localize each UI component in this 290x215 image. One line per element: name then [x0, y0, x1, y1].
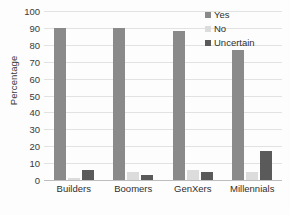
y-tick-label: 40 — [29, 107, 40, 118]
bar-slot — [201, 172, 213, 180]
y-tick-label: 50 — [29, 90, 40, 101]
bar-slot — [113, 28, 125, 180]
legend-swatch-icon — [205, 12, 211, 18]
x-axis-labels: BuildersBoomersGenXersMillennials — [44, 183, 282, 194]
y-tick-label: 0 — [35, 175, 40, 186]
bar — [173, 31, 185, 180]
x-tick-label: Boomers — [104, 183, 164, 194]
bar-slot — [173, 31, 185, 180]
bar — [187, 170, 199, 180]
bar — [82, 170, 94, 180]
y-tick-label: 70 — [29, 56, 40, 67]
y-tick-label: 10 — [29, 158, 40, 169]
bar-slot — [54, 28, 66, 180]
gridline — [44, 180, 282, 181]
bar-slot — [68, 178, 80, 180]
y-tick-label: 80 — [29, 39, 40, 50]
legend-item[interactable]: No — [205, 23, 255, 34]
legend-label: No — [214, 23, 226, 34]
y-tick-label: 30 — [29, 124, 40, 135]
legend-item[interactable]: Uncertain — [205, 37, 255, 48]
bar — [68, 178, 80, 180]
bar — [246, 172, 258, 180]
y-tick-label: 60 — [29, 73, 40, 84]
chart-legend: YesNoUncertain — [205, 9, 255, 48]
y-tick-label: 100 — [24, 6, 40, 17]
bar-slot — [82, 170, 94, 180]
bar-slot — [246, 172, 258, 180]
bar — [127, 172, 139, 180]
legend-swatch-icon — [205, 26, 211, 32]
bar — [260, 151, 272, 180]
legend-label: Uncertain — [214, 37, 255, 48]
x-tick-label: Millennials — [223, 183, 283, 194]
legend-label: Yes — [214, 9, 230, 20]
bar-slot — [260, 151, 272, 180]
bar — [232, 50, 244, 180]
bar — [54, 28, 66, 180]
legend-item[interactable]: Yes — [205, 9, 255, 20]
bar-slot — [141, 175, 153, 180]
bar — [141, 175, 153, 180]
y-axis-title: Percentage — [8, 31, 19, 131]
bar-slot — [232, 50, 244, 180]
bar — [201, 172, 213, 180]
bar-group — [44, 11, 104, 180]
x-tick-label: Builders — [44, 183, 104, 194]
legend-swatch-icon — [205, 40, 211, 46]
bar-group — [104, 11, 164, 180]
bar — [113, 28, 125, 180]
bar-slot — [127, 172, 139, 180]
chart-screenshot: Percentage 1009080706050403020100 Builde… — [0, 0, 290, 215]
y-tick-label: 20 — [29, 141, 40, 152]
bar-slot — [187, 170, 199, 180]
x-tick-label: GenXers — [163, 183, 223, 194]
y-tick-label: 90 — [29, 22, 40, 33]
